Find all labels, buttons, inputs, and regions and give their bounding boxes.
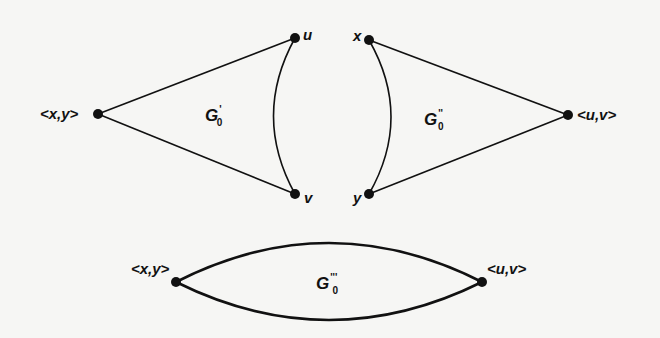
node-u (290, 33, 300, 43)
graph-label-g0-prime: G'0 (205, 107, 226, 124)
node-xy-left (93, 109, 103, 119)
label-uv-right: <u,v> (577, 107, 616, 122)
graph-label-sup: ' (219, 104, 221, 115)
label-x: x (353, 28, 361, 43)
graph-label-g0-doubleprime: G''0 (424, 111, 448, 128)
label-v: v (304, 190, 312, 205)
label-uv-bottom: <u,v> (487, 261, 526, 276)
label-xy-bottom: <x,y> (131, 261, 169, 276)
graph-label-g0-tripleprime: G'''0 (316, 275, 342, 292)
label-y: y (353, 190, 361, 205)
edge-x-y-curved (369, 40, 391, 194)
edge-y-uv (369, 115, 568, 194)
label-xy-left: <x,y> (40, 106, 78, 121)
edge-u-v-curved (274, 38, 296, 194)
node-xy-bottom (171, 277, 181, 287)
node-uv-bottom (477, 277, 487, 287)
label-u: u (303, 27, 312, 42)
graph-label-sub: 0 (438, 121, 444, 132)
edge-x-uv (369, 40, 568, 115)
graph-label-sup: '' (438, 108, 443, 119)
graph-label-base: G (424, 110, 437, 129)
graph-label-sub: 0 (217, 117, 223, 128)
node-x (364, 35, 374, 45)
edge-xy-u (98, 38, 295, 114)
node-v (290, 189, 300, 199)
graph-label-sup: ''' (330, 272, 337, 283)
graph-label-sub: 0 (332, 285, 338, 296)
graph-label-base: G (316, 274, 329, 293)
node-y (364, 189, 374, 199)
edge-xy-v (98, 114, 295, 194)
node-uv-right (563, 110, 573, 120)
